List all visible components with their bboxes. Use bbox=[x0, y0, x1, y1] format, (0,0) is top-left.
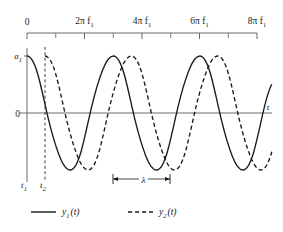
y-axis-a-sub: 1 bbox=[19, 56, 22, 63]
legend-label-y1: y1(t) bbox=[61, 207, 79, 219]
top-tick-label-2pi: 2π f1 bbox=[75, 16, 93, 28]
legend-y1-sub: 1 bbox=[66, 212, 69, 219]
waveform-figure: 0 2π f1 4π f1 6π f1 8π f1 bbox=[0, 0, 283, 232]
legend-y2-arg: (t) bbox=[167, 207, 176, 218]
t1-sub: 1 bbox=[24, 185, 27, 192]
time-marker-t2: t2 bbox=[40, 180, 47, 192]
legend: y1(t) y2(t) bbox=[31, 207, 176, 219]
top-tick-8pi-text: 8π f bbox=[248, 16, 264, 26]
legend-y1-arg: (t) bbox=[70, 207, 79, 218]
legend-item-y2[interactable]: y2(t) bbox=[128, 207, 176, 219]
top-tick-2pi-sub: 1 bbox=[90, 21, 93, 28]
plot-canvas: 0 2π f1 4π f1 6π f1 8π f1 bbox=[0, 0, 283, 232]
y-axis-max-label: a1 bbox=[14, 51, 22, 63]
top-tick-label-4pi: 4π f1 bbox=[133, 16, 151, 28]
top-tick-6pi-sub: 1 bbox=[205, 21, 208, 28]
top-tick-label-8pi: 8π f1 bbox=[248, 16, 266, 28]
t2-sub: 2 bbox=[43, 185, 47, 192]
wavelength-arrowhead-left bbox=[113, 177, 118, 181]
wavelength-bracket: λ bbox=[113, 174, 170, 185]
top-tick-label-0: 0 bbox=[25, 17, 30, 27]
x-axis-label-t: t bbox=[267, 102, 270, 112]
top-tick-4pi-text: 4π f bbox=[133, 16, 149, 26]
legend-item-y1[interactable]: y1(t) bbox=[31, 207, 79, 219]
top-tick-8pi-sub: 1 bbox=[263, 21, 266, 28]
top-tick-2pi-text: 2π f bbox=[75, 16, 91, 26]
top-tick-4pi-sub: 1 bbox=[148, 21, 151, 28]
time-marker-t1: t1 bbox=[21, 180, 27, 192]
top-phase-axis: 0 2π f1 4π f1 6π f1 8π f1 bbox=[25, 16, 267, 39]
top-tick-label-6pi: 6π f1 bbox=[190, 16, 208, 28]
y-axis-zero-label: 0 bbox=[15, 109, 20, 119]
wavelength-label: λ bbox=[141, 175, 146, 185]
legend-label-y2: y2(t) bbox=[158, 207, 176, 219]
top-tick-6pi-text: 6π f bbox=[190, 16, 206, 26]
wavelength-arrowhead-right bbox=[165, 177, 170, 181]
